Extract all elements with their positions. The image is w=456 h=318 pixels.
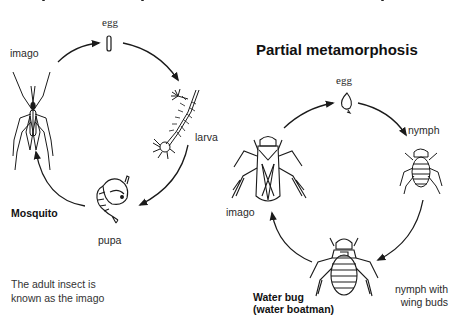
waterbug-nymph-label: nymph bbox=[408, 124, 440, 136]
mosquito-cycle-arrows bbox=[36, 43, 188, 206]
imago-note-line2: known as the imago bbox=[11, 291, 104, 305]
nymph-wingbuds-line1: nymph with bbox=[386, 283, 448, 296]
waterbug-name-line2: (water boatman) bbox=[253, 303, 334, 315]
mosquito-organism-label: Mosquito bbox=[11, 207, 58, 219]
mosquito-imago-illustration bbox=[13, 72, 53, 170]
waterbug-name-line1: Water bug bbox=[253, 291, 334, 303]
waterbug-nymph-wingbuds-illustration bbox=[310, 238, 378, 296]
nymph-wingbuds-line2: wing buds bbox=[386, 296, 448, 309]
mosquito-larva-illustration bbox=[153, 89, 199, 159]
waterbug-nymph-wingbuds-label: nymph with wing buds bbox=[386, 283, 448, 309]
waterbug-nymph-illustration bbox=[400, 149, 442, 194]
mosquito-imago-label: imago bbox=[10, 47, 39, 59]
imago-note: The adult insect is known as the imago bbox=[11, 277, 104, 305]
waterbug-imago-illustration bbox=[232, 137, 306, 202]
partial-metamorphosis-title: Partial metamorphosis bbox=[256, 41, 418, 58]
waterbug-egg-illustration bbox=[342, 93, 352, 113]
waterbug-imago-label: imago bbox=[226, 206, 255, 218]
mosquito-egg-illustration bbox=[107, 36, 111, 51]
mosquito-larva-label: larva bbox=[195, 131, 218, 143]
waterbug-egg-label: egg bbox=[336, 74, 352, 86]
waterbug-organism-label: Water bug (water boatman) bbox=[253, 291, 334, 315]
mosquito-egg-label: egg bbox=[102, 16, 118, 28]
mosquito-pupa-label: pupa bbox=[98, 234, 121, 246]
imago-note-line1: The adult insect is bbox=[11, 277, 104, 291]
mosquito-pupa-illustration bbox=[97, 176, 129, 223]
